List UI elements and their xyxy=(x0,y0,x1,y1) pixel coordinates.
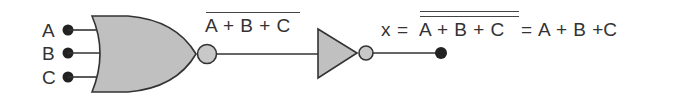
input-label-c: C xyxy=(42,68,56,87)
input-label-a: A xyxy=(42,21,55,40)
double-overbar-bottom xyxy=(420,16,519,17)
inverter-bubble xyxy=(359,46,373,60)
double-overbar-top xyxy=(420,11,519,12)
nor-inversion-bubble xyxy=(198,45,217,64)
nor-expression-overbar xyxy=(206,12,300,13)
equals-sign-2: = xyxy=(521,20,532,39)
nor-output-expression: A + B + C xyxy=(205,16,290,35)
input-label-b: B xyxy=(42,44,55,63)
equals-sign-1: = xyxy=(397,20,408,39)
output-barred-expression: A + B + C xyxy=(419,20,504,39)
output-simplified-expression: A + B +C xyxy=(538,20,617,39)
output-variable: x xyxy=(381,20,391,39)
output-equation: x = A + B + C = A + B +C xyxy=(381,20,390,96)
or-gate-body xyxy=(92,16,196,92)
output-terminal xyxy=(435,47,447,59)
inverter-body xyxy=(318,29,357,78)
logic-diagram xyxy=(0,0,677,96)
